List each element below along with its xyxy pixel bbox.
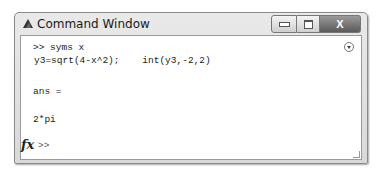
window-controls: X: [271, 15, 361, 32]
console-line-result: 2*pi: [33, 114, 56, 125]
title-bar[interactable]: Command Window X: [15, 13, 367, 34]
command-prompt[interactable]: >>: [38, 140, 49, 151]
close-icon: X: [336, 18, 343, 30]
matlab-logo-icon: [22, 18, 34, 29]
minimize-icon: [279, 22, 290, 27]
command-window: Command Window X >> syms x y3=sqrt(4-x^2…: [14, 12, 368, 164]
resize-grip-icon[interactable]: [353, 151, 360, 158]
fx-icon[interactable]: fx: [21, 137, 34, 152]
window-title: Command Window: [37, 17, 150, 31]
maximize-icon: [304, 20, 313, 29]
minimize-button[interactable]: [271, 15, 297, 33]
close-button[interactable]: X: [320, 15, 361, 33]
console-line-command: y3=sqrt(4-x^2); int(y3,-2,2): [34, 55, 211, 66]
console-area[interactable]: >> syms x y3=sqrt(4-x^2); int(y3,-2,2) a…: [20, 35, 362, 160]
console-line-output: ans =: [33, 86, 62, 97]
maximize-button[interactable]: [297, 15, 320, 33]
options-menu-icon[interactable]: [344, 42, 354, 52]
console-line-command: >> syms x: [33, 42, 84, 53]
